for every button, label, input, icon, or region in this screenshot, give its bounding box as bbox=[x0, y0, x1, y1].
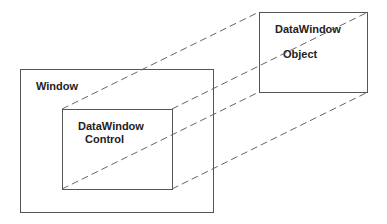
diagram-canvas: Window DataWindow Object DataWindow Cont… bbox=[0, 0, 387, 224]
connector-bottom-right bbox=[172, 92, 368, 189]
datawindow-control-label-line2: Control bbox=[85, 133, 124, 145]
window-label: Window bbox=[36, 80, 78, 92]
datawindow-control-label-line1: DataWindow bbox=[78, 120, 144, 132]
datawindow-object-label-line2: Object bbox=[283, 48, 318, 60]
datawindow-object-label-line1: DataWindow bbox=[275, 23, 341, 35]
connector-top-left bbox=[62, 12, 259, 109]
